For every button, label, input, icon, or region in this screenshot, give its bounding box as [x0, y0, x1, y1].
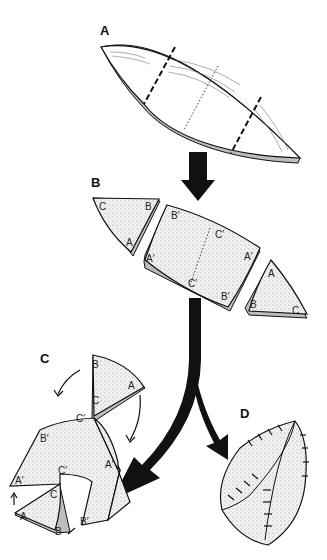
label-c: C — [92, 395, 99, 406]
step-d-label: D — [240, 406, 249, 421]
label-a-prime-2: A′ — [244, 251, 253, 262]
label-c: C — [292, 305, 299, 316]
label-c-prime: C′ — [215, 229, 224, 240]
piece-right-triangle: A B C — [245, 260, 307, 318]
label-b: B — [92, 359, 99, 370]
step-d: D — [220, 406, 309, 545]
step-a: A — [100, 23, 300, 163]
label-b: B — [55, 526, 62, 537]
label-c-prime: C′ — [76, 413, 85, 424]
step-a-label: A — [100, 23, 110, 38]
label-c: C — [99, 201, 106, 212]
label-b-prime-2: B′ — [221, 291, 230, 302]
label-a-prime: A′ — [105, 459, 114, 470]
step-c: C B A C C′ B′ A′ C′ A′ C A B B′ — [10, 351, 145, 537]
label-c-prime-2: C′ — [58, 465, 67, 476]
piece-center-rectangle: B′ C′ A′ A′ C′ B′ — [144, 205, 260, 311]
label-a-prime-2: A′ — [15, 475, 24, 486]
label-a: A — [20, 511, 27, 522]
label-b: B — [145, 201, 152, 212]
assembly-diagram: A B C B A B′ C′ A′ — [0, 0, 327, 560]
stitched-pod — [220, 421, 306, 545]
label-a: A — [126, 237, 133, 248]
label-a-prime: A′ — [146, 253, 155, 264]
arrow-a-to-b — [181, 152, 215, 201]
label-b-prime: B′ — [171, 210, 180, 221]
label-a: A — [268, 268, 275, 279]
label-b-prime-2: B′ — [80, 516, 89, 527]
label-a: A — [128, 380, 135, 391]
step-b-label: B — [91, 175, 100, 190]
step-c-label: C — [40, 351, 50, 366]
label-b-prime: B′ — [40, 433, 49, 444]
label-c: C — [50, 489, 57, 500]
label-c-prime-2: C′ — [188, 278, 197, 289]
lens-top — [101, 46, 300, 158]
label-b: B — [250, 299, 257, 310]
